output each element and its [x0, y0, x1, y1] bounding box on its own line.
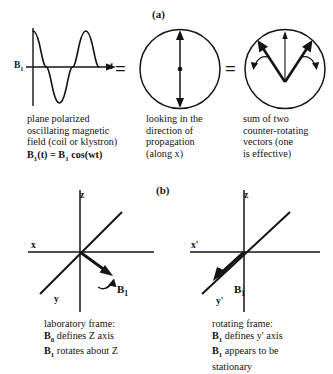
- circle-center-dot: [178, 67, 183, 72]
- caption-line: counter-rotating: [243, 125, 308, 137]
- caption-line: stationary: [212, 361, 283, 373]
- caption-line: B0 defines Z axis: [44, 330, 118, 346]
- caption-line: plane polarized: [27, 113, 117, 125]
- right-rotation-curve: [301, 57, 315, 66]
- caption-propagation-view: looking in the direction of propagation …: [146, 113, 203, 159]
- wave-time-label: t: [110, 61, 113, 71]
- caption-line: B1 defines y' axis: [212, 330, 283, 346]
- resultant-vector-head: [282, 31, 287, 39]
- wave-amplitude-label: B1: [14, 60, 24, 72]
- caption-line: laboratory frame:: [44, 318, 118, 330]
- caption-line: field (coil or klystron): [27, 136, 117, 148]
- laboratory-frame-diagram: [26, 186, 162, 316]
- caption-line: B1 appears to be: [212, 345, 283, 361]
- panel-a-label: (a): [152, 8, 165, 20]
- rotating-frame-z-label: z: [244, 190, 248, 200]
- caption-line: B1 rotates about Z: [44, 345, 118, 361]
- left-rotation-curve: [255, 57, 269, 66]
- left-rotation-arrowhead: [251, 62, 258, 70]
- caption-line: direction of: [146, 125, 203, 137]
- left-rotating-vector-head: [258, 40, 269, 53]
- y-prime-axis-line: [202, 212, 290, 294]
- rotating-frame-y-prime-label: y': [216, 296, 223, 306]
- right-rotation-arrowhead: [312, 62, 319, 70]
- oscillation-arrow-head-up: [176, 30, 184, 40]
- caption-line: is effective): [243, 148, 308, 160]
- right-rotating-vector-head: [302, 40, 313, 53]
- left-rotating-vector-shaft: [262, 46, 286, 82]
- oscillation-arrow-head-down: [176, 98, 184, 108]
- caption-line: sum of two: [243, 113, 308, 125]
- rotating-frame-diagram: [186, 186, 326, 316]
- rotating-frame-x-prime-label: x': [191, 240, 198, 250]
- caption-line: propagation: [146, 136, 203, 148]
- counter-rotating-vectors-circle: [243, 27, 327, 111]
- plane-polarized-wave-diagram: [12, 26, 124, 108]
- caption-line: rotating frame:: [212, 318, 283, 330]
- caption-line: (along x): [146, 148, 203, 160]
- propagation-view-circle: [138, 27, 222, 111]
- rotating-frame-b1-label: B1: [234, 283, 245, 298]
- caption-rotating-frame: rotating frame: B1 defines y' axis B1 ap…: [212, 318, 283, 372]
- caption-equation: B1(t) = B1 cos(wt): [27, 148, 117, 165]
- equals-sign-2: =: [225, 59, 236, 78]
- b1-vector-shaft: [80, 252, 106, 271]
- caption-line: vectors (one: [243, 136, 308, 148]
- equals-sign-1: =: [115, 59, 126, 78]
- caption-laboratory-frame: laboratory frame: B0 defines Z axis B1 r…: [44, 318, 118, 361]
- caption-counter-rotating: sum of two counter-rotating vectors (one…: [243, 113, 308, 159]
- caption-line: looking in the: [146, 113, 203, 125]
- nmr-rotating-frame-figure: (a) B1 t = =: [0, 0, 333, 374]
- lab-frame-b1-label: B1: [117, 283, 128, 298]
- caption-plane-polarized: plane polarized oscillating magnetic fie…: [27, 113, 117, 164]
- lab-frame-z-label: z: [80, 190, 84, 200]
- lab-frame-x-label: x: [31, 240, 36, 250]
- lab-frame-y-label: y: [54, 294, 59, 304]
- right-rotating-vector-shaft: [285, 46, 309, 82]
- caption-line: oscillating magnetic: [27, 125, 117, 137]
